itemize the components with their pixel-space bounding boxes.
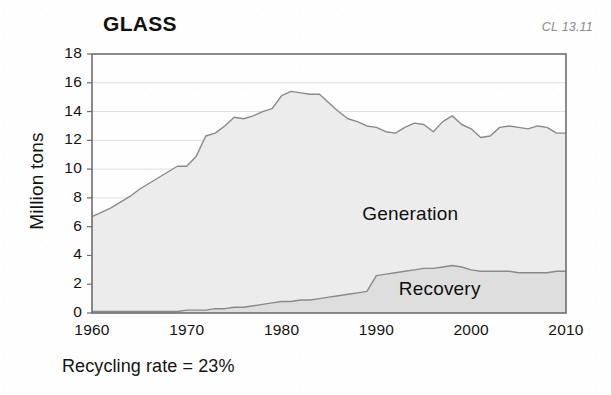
y-tick-6: 6: [48, 217, 82, 235]
y-tick-16: 16: [48, 73, 82, 91]
y-tick-0: 0: [48, 303, 82, 321]
x-tick-1960: 1960: [62, 321, 122, 339]
x-tick-2010: 2010: [536, 321, 596, 339]
y-tick-2: 2: [48, 274, 82, 292]
y-tick-12: 12: [48, 130, 82, 148]
recycling-rate-caption: Recycling rate = 23%: [62, 356, 235, 377]
series-label-generation: Generation: [362, 203, 458, 225]
y-tick-10: 10: [48, 159, 82, 177]
x-tick-1980: 1980: [252, 321, 312, 339]
y-tick-4: 4: [48, 245, 82, 263]
y-tick-18: 18: [48, 44, 82, 62]
y-tick-14: 14: [48, 102, 82, 120]
x-tick-1990: 1990: [346, 321, 406, 339]
y-tick-8: 8: [48, 188, 82, 206]
x-tick-1970: 1970: [157, 321, 217, 339]
figure-root: GLASS CL 13.11 Million tons 024681012141…: [0, 0, 611, 395]
series-label-recovery: Recovery: [399, 278, 481, 300]
x-tick-2000: 2000: [441, 321, 501, 339]
